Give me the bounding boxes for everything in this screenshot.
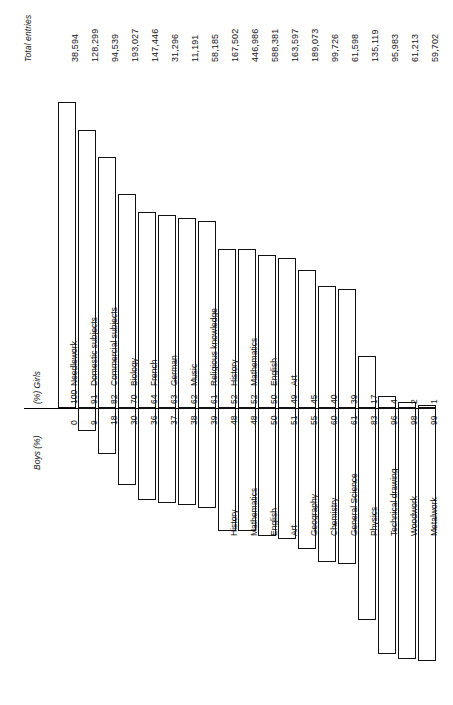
bar-boys xyxy=(318,408,336,562)
bar-boys xyxy=(278,408,296,539)
bar-girls xyxy=(298,270,316,408)
value-label-girls: 1 xyxy=(430,399,439,404)
plot-area: 0100Needlework991Domestic subjects1882Co… xyxy=(0,0,453,705)
bar-girls xyxy=(338,289,356,408)
chart-figure: Total entries 38,594128,29994,539193,027… xyxy=(0,0,453,705)
value-label-boys: 99 xyxy=(430,416,439,425)
bar-girls xyxy=(318,286,336,408)
subject-label: Metalwork xyxy=(430,497,439,536)
value-label-girls: 2 xyxy=(410,399,419,404)
